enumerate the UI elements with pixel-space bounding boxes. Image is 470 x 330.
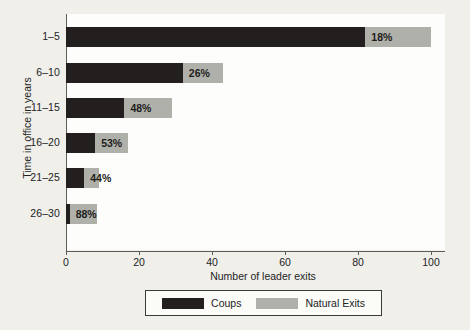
x-tick-label: 20 [119,256,159,268]
bar-segment-coups [66,98,124,118]
y-tick-label: 1–5 [4,30,60,42]
bar-row[interactable] [66,98,172,118]
y-tick-label: 6–10 [4,66,60,78]
legend-label-natural-exits: Natural Exits [305,297,365,309]
bar-data-label: 44% [90,172,111,184]
x-tick-mark [431,251,432,255]
x-tick-label: 40 [192,256,232,268]
x-tick-mark [212,251,213,255]
x-tick-mark [358,251,359,255]
legend-item-natural-exits[interactable]: Natural Exits [256,297,365,309]
legend-label-coups: Coups [211,297,241,309]
bar-data-label: 48% [130,102,151,114]
bar-segment-coups [66,168,84,188]
x-tick-label: 80 [338,256,378,268]
chart-figure: Time in office in years 1–56–1011–1516–2… [0,0,470,330]
bar-data-label: 18% [371,31,392,43]
y-tick-label: 16–20 [4,136,60,148]
x-tick-mark [285,251,286,255]
plot-area [66,14,445,250]
legend-swatch-natural-exits [256,298,298,309]
legend-item-coups[interactable]: Coups [162,297,241,309]
bar-segment-coups [66,27,365,47]
y-axis-title: Time in office in years [21,28,33,228]
x-axis-line [66,251,445,252]
bar-data-label: 26% [189,67,210,79]
x-tick-mark [66,251,67,255]
x-tick-mark [139,251,140,255]
x-tick-label: 100 [411,256,451,268]
x-tick-label: 60 [265,256,305,268]
chart-legend: Coups Natural Exits [145,290,382,316]
bar-data-label: 53% [101,137,122,149]
y-tick-label: 11–15 [4,101,60,113]
y-tick-label: 26–30 [4,207,60,219]
bar-segment-coups [66,133,95,153]
bar-segment-coups [66,63,183,83]
legend-swatch-coups [162,298,204,309]
y-tick-label: 21–25 [4,171,60,183]
bar-data-label: 88% [76,208,97,220]
x-tick-label: 0 [46,256,86,268]
x-axis-title: Number of leader exits [0,270,470,282]
